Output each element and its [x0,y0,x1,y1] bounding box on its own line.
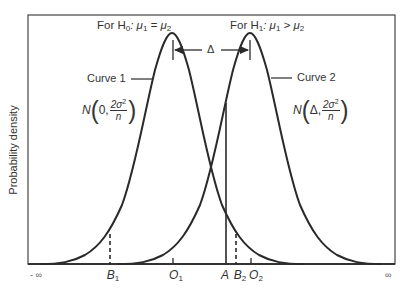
curve-1 [40,33,304,264]
curve-1-label: Curve 1 [87,73,126,84]
marker-a: A [221,268,229,283]
diagram-canvas [0,0,407,290]
marker-b2: B2 [234,268,246,283]
neg-infinity-label: - ∞ [30,270,42,280]
marker-o1: O1 [169,268,183,283]
curve-2-distribution: N(Δ, 2σ2n) [293,98,349,122]
marker-b1: B1 [107,268,119,283]
pos-infinity-label: ∞ [385,270,391,280]
marker-o2: O2 [249,268,263,283]
arrow-right-icon [240,46,249,54]
curve-1-distribution: N(0, 2σ2n) [82,98,136,122]
y-axis-label: Probability density [7,105,19,194]
arrow-left-icon [174,46,183,54]
h1-label: For H1: μ1 > μ2 [230,20,304,33]
delta-label: Δ [207,44,214,55]
curve-2 [118,33,382,264]
curve-2-label: Curve 2 [297,72,336,83]
h0-label: For H0: μ1 = μ2 [97,20,171,33]
